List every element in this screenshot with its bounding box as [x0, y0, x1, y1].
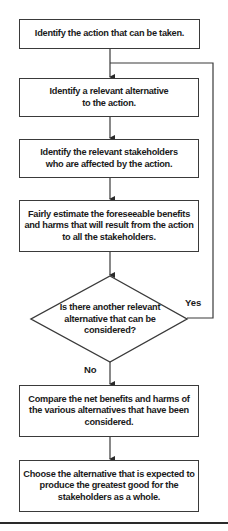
- step-identify-stakeholders: Identify the relevant stakeholders who a…: [19, 139, 199, 178]
- step-text: Choose the alternative that is expected …: [23, 469, 195, 504]
- step-compare-alternatives: Compare the net benefits and harms of th…: [19, 385, 199, 437]
- step-choose-alternative: Choose the alternative that is expected …: [19, 460, 199, 512]
- decision-text: Is there another relevant alternative th…: [50, 302, 170, 337]
- step-text: Fairly estimate the foreseeable benefits…: [23, 209, 195, 244]
- step-estimate-benefits-harms: Fairly estimate the foreseeable benefits…: [19, 200, 199, 252]
- step-identify-action: Identify the action that can be taken.: [19, 19, 200, 49]
- step-text: Identify the relevant stakeholders who a…: [23, 147, 195, 170]
- yes-label: Yes: [185, 297, 201, 308]
- bottom-rule: [0, 522, 228, 524]
- step-text: Identify the action that can be taken.: [35, 28, 184, 40]
- step-text: Compare the net benefits and harms of th…: [23, 394, 195, 429]
- step-text: Identify a relevant alternative to the a…: [23, 86, 195, 109]
- no-label: No: [84, 364, 97, 375]
- step-identify-alternative: Identify a relevant alternative to the a…: [19, 78, 199, 117]
